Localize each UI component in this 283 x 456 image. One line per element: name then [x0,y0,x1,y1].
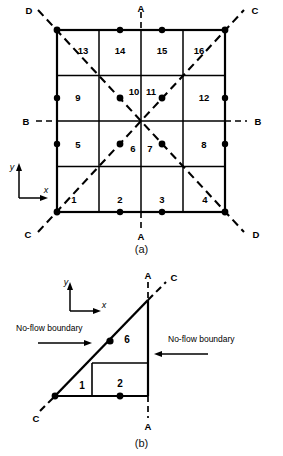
cell-number-b-6: 6 [124,334,130,345]
x-axis-arrow-icon-b [93,308,101,314]
cell-number-b-1: 1 [79,380,85,391]
annotation-right-no-flow-label: No-flow boundary [168,334,235,344]
axis-label-y-b: y [63,277,69,287]
arrow-right-icon-left-annot [84,340,92,346]
annotation-left-no-flow-label: No-flow boundary [16,323,83,333]
section-label-b-c-bottomleft: C [33,413,40,424]
section-label-b-c-topright: C [171,272,178,283]
triangle-domain [55,300,148,396]
node-bottom-left [52,393,59,400]
hypotenuse-boundary [55,300,148,396]
section-label-b-a-top: A [145,270,152,281]
arrow-left-icon-right-annot [154,351,162,357]
cell-number-b-2: 2 [117,378,123,389]
axis-indicator-b: y x [63,277,107,314]
section-label-b-a-bottom: A [145,421,152,432]
annotation-right-no-flow: No-flow boundary [154,334,235,357]
node-bottom-mid [117,393,124,400]
part-b-svg: 1 2 6 A A C C y x No-flow boundary No-fl… [0,0,283,456]
axis-label-x-b: x [101,300,107,310]
caption-part-b: (b) [0,437,283,449]
section-letter-group-b: A A C C [33,270,178,432]
annotation-left-no-flow: No-flow boundary [16,323,92,346]
figure-part-b: 1 2 6 A A C C y x No-flow boundary No-fl… [0,0,283,456]
node-hypotenuse-mid [106,337,113,344]
